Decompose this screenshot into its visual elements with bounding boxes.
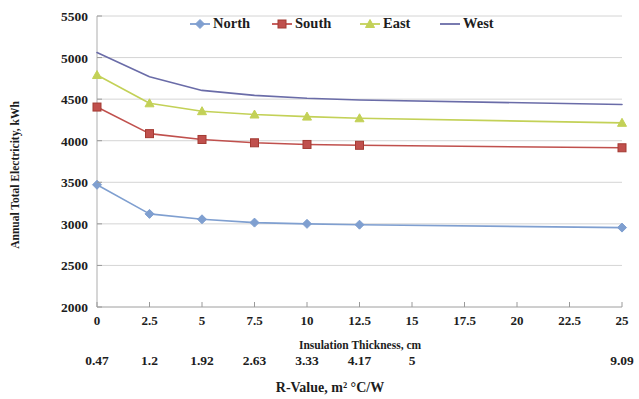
data-point-marker	[93, 180, 102, 189]
data-point-marker	[303, 219, 312, 228]
data-point-marker	[251, 139, 259, 147]
x-tick-label: 10	[301, 313, 314, 328]
legend-label: North	[213, 15, 250, 31]
series-east	[93, 71, 627, 127]
data-point-marker	[145, 99, 154, 107]
x-tick-labels: 02.557.51012.51517.52022.525	[94, 313, 629, 328]
r-value-label: 2.63	[243, 353, 267, 368]
x-tick-marks	[97, 302, 622, 307]
r-value-tick-labels: 0.471.21.922.633.334.1759.09	[85, 353, 634, 368]
series-north	[93, 180, 627, 232]
x-tick-label: 15	[406, 313, 420, 328]
series-layer	[93, 53, 627, 233]
data-point-marker	[618, 223, 627, 232]
y-tick-label: 4500	[61, 92, 88, 107]
r-value-label: 9.09	[610, 353, 634, 368]
y-tick-label: 4000	[61, 134, 88, 149]
y-tick-label: 5500	[61, 9, 88, 24]
x-tick-label: 17.5	[453, 313, 476, 328]
data-point-marker	[198, 215, 207, 224]
legend-marker-diamond-icon	[196, 20, 205, 29]
x-tick-label: 7.5	[246, 313, 263, 328]
data-point-marker	[250, 218, 259, 227]
r-value-label: 1.2	[141, 353, 158, 368]
legend-marker-square-icon	[278, 20, 286, 28]
data-point-marker	[145, 209, 154, 218]
x-tick-label: 22.5	[558, 313, 581, 328]
r-value-label: 5	[409, 353, 416, 368]
r-value-label: 0.47	[85, 353, 109, 368]
line-chart: 55005000450040003500300025002000 02.557.…	[0, 0, 639, 399]
legend-label: East	[383, 15, 411, 31]
data-point-marker	[355, 220, 364, 229]
data-point-marker	[356, 141, 364, 149]
x-axis-title: Insulation Thickness, cm	[299, 339, 422, 351]
legend-label: West	[463, 15, 494, 31]
y-tick-label: 3500	[61, 175, 88, 190]
legend-label: South	[295, 15, 331, 31]
data-point-marker	[93, 103, 101, 111]
legend-item-west[interactable]: West	[440, 15, 494, 31]
y-tick-labels: 55005000450040003500300025002000	[61, 9, 102, 315]
series-south	[93, 103, 626, 152]
y-tick-label: 2500	[61, 258, 88, 273]
r-value-axis-title: R-Value, m² °C/W	[276, 380, 384, 395]
y-tick-label: 3000	[61, 217, 88, 232]
data-point-marker	[93, 71, 102, 79]
chart-legend: NorthSouthEastWest	[190, 15, 494, 31]
legend-item-north[interactable]: North	[190, 15, 250, 31]
chart-figure: 55005000450040003500300025002000 02.557.…	[0, 0, 639, 399]
grid-lines	[97, 16, 622, 307]
data-point-marker	[303, 140, 311, 148]
data-point-marker	[618, 144, 626, 152]
x-tick-label: 20	[511, 313, 524, 328]
legend-item-east[interactable]: East	[360, 15, 411, 31]
data-point-marker	[146, 130, 154, 138]
series-line	[97, 53, 622, 105]
x-tick-label: 0	[94, 313, 101, 328]
x-tick-label: 12.5	[348, 313, 371, 328]
r-value-label: 3.33	[295, 353, 319, 368]
series-west	[97, 53, 622, 105]
legend-item-south[interactable]: South	[272, 15, 331, 31]
x-tick-label: 25	[616, 313, 630, 328]
r-value-label: 1.92	[190, 353, 214, 368]
data-point-marker	[198, 135, 206, 143]
x-tick-label: 5	[199, 313, 206, 328]
x-tick-label: 2.5	[141, 313, 158, 328]
axis-lines	[97, 16, 622, 307]
r-value-label: 4.17	[348, 353, 372, 368]
y-axis-title: Annual Total Electricity, kWh	[9, 101, 22, 249]
y-tick-label: 5000	[61, 51, 88, 66]
y-tick-label: 2000	[61, 300, 88, 315]
